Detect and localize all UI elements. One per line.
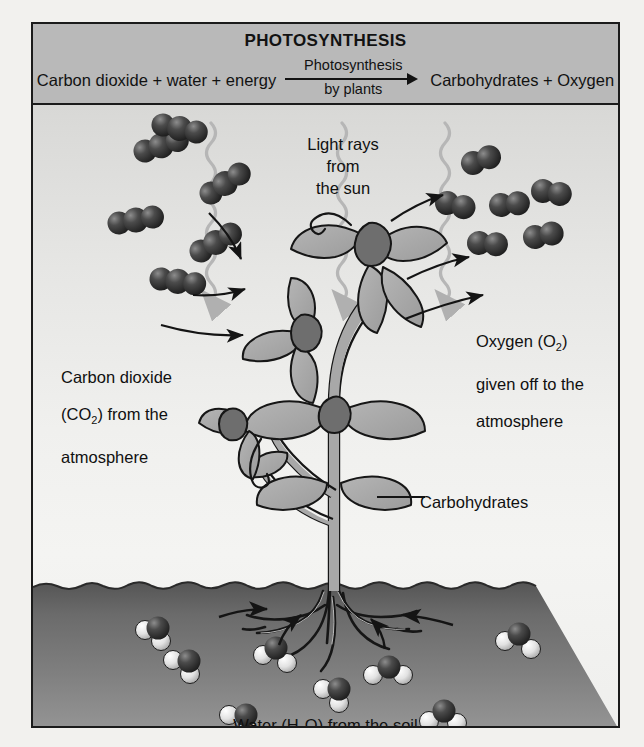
co2-molecule	[185, 217, 247, 267]
leaf	[341, 476, 411, 510]
plant-leaves	[199, 225, 447, 510]
oxygen-label-line1-post: )	[562, 332, 568, 350]
carbon-dioxide-label-line3: atmosphere	[61, 448, 148, 466]
leaf	[291, 345, 318, 403]
scene: Light rays from the sun Carbon dioxide (…	[33, 105, 618, 728]
reaction-arrow-line	[285, 78, 410, 80]
oxygen-label: Oxygen (O2) given off to the atmosphere	[476, 313, 620, 430]
carbon-dioxide-label-line2-pre: (CO	[61, 405, 91, 423]
flower-bud	[355, 223, 391, 266]
leaf	[341, 401, 425, 439]
light-ray-icon-left	[207, 123, 216, 301]
photosynthesis-equation: Carbon dioxide + water + energy Photosyn…	[33, 60, 618, 100]
oxygen-label-line1-pre: Oxygen (O	[476, 332, 556, 350]
arrow-icon	[161, 325, 243, 335]
leaf	[382, 267, 424, 327]
oxygen-label-line2: given off to the	[476, 375, 584, 393]
co2-molecule	[106, 203, 166, 238]
diagram-frame: PHOTOSYNTHESIS Carbon dioxide + water + …	[31, 22, 620, 728]
o2-molecule	[458, 142, 505, 179]
equation-reactants: Carbon dioxide + water + energy	[37, 71, 276, 90]
reaction-arrow-above-label: Photosynthesis	[285, 57, 421, 73]
reaction-arrow-icon: Photosynthesis by plants	[285, 60, 421, 100]
light-rays-label: Light rays from the sun	[278, 133, 408, 199]
flower-bud	[291, 315, 322, 352]
carbon-dioxide-molecules	[106, 110, 256, 297]
oxygen-label-line3: atmosphere	[476, 412, 563, 430]
o2-molecule	[488, 190, 531, 218]
photosynthesis-diagram: PHOTOSYNTHESIS Carbon dioxide + water + …	[0, 0, 644, 747]
leaf	[291, 225, 363, 258]
equation-header: PHOTOSYNTHESIS Carbon dioxide + water + …	[33, 24, 618, 105]
leaf	[245, 401, 329, 439]
carbon-dioxide-label-line1: Carbon dioxide	[61, 368, 172, 386]
water-label: Water (H2O) from the soil	[33, 697, 618, 728]
o2-molecule	[529, 177, 574, 208]
water-label-pre: Water (H	[233, 716, 298, 729]
equation-products: Carbohydrates + Oxygen	[430, 71, 614, 90]
co2-molecule	[194, 157, 255, 210]
o2-molecule	[466, 230, 509, 257]
page-title: PHOTOSYNTHESIS	[33, 31, 618, 51]
oxygen-molecules	[432, 142, 573, 257]
co2-molecule	[148, 265, 208, 298]
reaction-arrow-below-label: by plants	[285, 81, 421, 97]
carbon-dioxide-label-line2-post: ) from the	[97, 405, 168, 423]
flower-bud	[319, 397, 351, 433]
carbon-dioxide-label: Carbon dioxide (CO2) from the atmosphere	[61, 349, 231, 466]
o2-molecule	[521, 219, 566, 251]
carbohydrates-label: Carbohydrates	[420, 493, 528, 512]
water-label-post: O) from the soil	[305, 716, 418, 729]
